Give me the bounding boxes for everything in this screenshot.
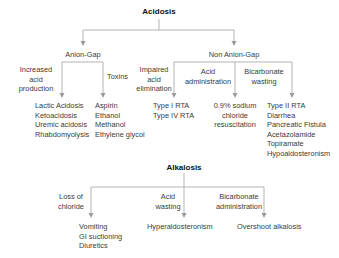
branch-label-acid-administration: Acid administration bbox=[183, 67, 233, 86]
list-acid-administration: 0.9% sodium chloride resuscitation bbox=[211, 101, 259, 130]
arrow-down-icon bbox=[290, 93, 295, 98]
list-toxins: Aspirin Ethanol Methanol Ethylene glycol bbox=[95, 101, 145, 139]
branch-label-toxins: Toxins bbox=[107, 72, 128, 82]
arrow-down-icon bbox=[232, 41, 237, 46]
branch-label-increased-acid-production: Increased acid production bbox=[16, 65, 56, 94]
branch-label-bicarbonate-administration: Bicarbonate administration bbox=[215, 192, 263, 211]
list-acid-wasting: Hyperaldosteronism bbox=[147, 222, 213, 232]
branch-label-impaired-acid-elimination: Impaired acid elimination bbox=[136, 65, 172, 94]
arrow-down-icon bbox=[182, 213, 187, 218]
list-bicarbonate-administration: Overshoot alkalosis bbox=[237, 222, 302, 232]
non-anion-gap-node: Non Anion-Gap bbox=[203, 50, 265, 60]
branch-label-bicarbonate-wasting: Bicarbonate wasting bbox=[239, 67, 289, 86]
list-loss-of-chloride: Vomiting GI suctioning Diuretics bbox=[79, 222, 122, 251]
arrow-down-icon bbox=[262, 213, 267, 218]
branch-label-acid-wasting: Acid wasting bbox=[154, 192, 182, 211]
branch-label-loss-of-chloride: Loss of chloride bbox=[54, 192, 88, 211]
alkalosis-title: Alkalosis bbox=[162, 163, 206, 173]
arrow-down-icon bbox=[101, 93, 106, 98]
arrow-down-icon bbox=[60, 93, 65, 98]
list-anion-gap-production: Lactic Acidosis Ketoacidosis Uremic acid… bbox=[35, 101, 89, 139]
arrow-down-icon bbox=[233, 93, 238, 98]
anion-gap-node: Anion-Gap bbox=[60, 50, 106, 60]
arrow-down-icon bbox=[81, 41, 86, 46]
arrow-down-icon bbox=[89, 213, 94, 218]
acidosis-title: Acidosis bbox=[139, 7, 179, 17]
list-impaired-elimination: Type I RTA Type IV RTA bbox=[153, 101, 194, 120]
list-bicarbonate-wasting: Type II RTA Diarrhea Pancreatic Fistula … bbox=[267, 101, 330, 159]
arrow-down-icon bbox=[172, 93, 177, 98]
